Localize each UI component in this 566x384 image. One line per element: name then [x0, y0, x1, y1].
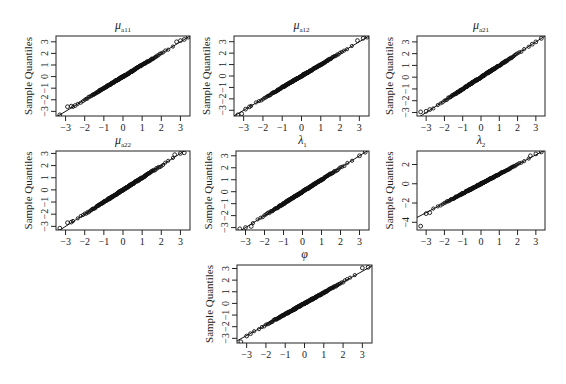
- y-tick-label: −3: [217, 105, 228, 116]
- y-tick-label: −2: [400, 95, 411, 106]
- y-axis-label: Sample Quantiles: [22, 37, 34, 115]
- y-tick-label: 2: [39, 163, 50, 168]
- qq-plot-grid: μa11−3−2−10123−3−2−10123Sample Quantiles…: [0, 0, 566, 384]
- y-tick-label: 3: [217, 39, 228, 44]
- y-tick-label: −2: [39, 94, 50, 105]
- x-tick-label: −3: [421, 122, 432, 133]
- panel-title: μa12: [292, 18, 310, 34]
- x-tick-label: 1: [497, 236, 502, 247]
- panel-title: λ2: [476, 133, 486, 149]
- x-tick-label: 0: [299, 122, 304, 133]
- x-tick-label: −1: [457, 236, 468, 247]
- y-tick-label: −1: [220, 310, 231, 321]
- y-tick-label: 2: [220, 278, 231, 283]
- y-axis-label: Sample Quantiles: [202, 152, 214, 230]
- qq-panel-1: μa12−3−2−10123−3−2−10123Sample Quantiles: [200, 18, 369, 133]
- x-tick-label: −1: [99, 122, 110, 133]
- y-tick-label: 1: [217, 62, 228, 67]
- x-tick-label: 0: [479, 122, 484, 133]
- x-tick-label: −1: [277, 122, 288, 133]
- x-tick-label: −3: [238, 122, 249, 133]
- x-tick-label: −2: [261, 349, 272, 360]
- x-tick-label: −3: [240, 236, 251, 247]
- x-tick-label: −1: [457, 122, 468, 133]
- x-tick-label: 1: [497, 122, 502, 133]
- y-tick-label: −3: [39, 106, 50, 117]
- x-tick-label: 1: [321, 349, 326, 360]
- x-tick-label: 3: [533, 122, 538, 133]
- qq-panel-2: μa21−3−2−10123−3−2−10123Sample Quantiles: [383, 18, 545, 133]
- y-tick-label: 3: [39, 151, 50, 156]
- y-tick-label: 0: [220, 301, 231, 306]
- x-tick-label: −2: [439, 122, 450, 133]
- panel-title: λ1: [297, 133, 307, 149]
- y-axis-label: Sample Quantiles: [200, 37, 212, 115]
- y-axis-label: Sample Quantiles: [383, 37, 395, 115]
- y-tick-label: −2: [39, 209, 50, 220]
- x-tick-label: −2: [79, 236, 90, 247]
- x-tick-label: 2: [515, 122, 520, 133]
- y-tick-label: −2: [217, 94, 228, 105]
- x-tick-label: 3: [357, 236, 362, 247]
- x-tick-label: 3: [533, 236, 538, 247]
- y-tick-label: 2: [219, 165, 230, 170]
- y-tick-label: 0: [219, 189, 230, 194]
- y-tick-label: 1: [400, 63, 411, 68]
- y-tick-label: 2: [217, 51, 228, 56]
- qq-panel-6: φ−3−2−10123−3−2−10123Sample Quantiles: [203, 247, 372, 360]
- y-tick-label: −2: [219, 210, 230, 221]
- y-tick-label: 3: [400, 39, 411, 44]
- panel-title: μa11: [114, 18, 131, 34]
- qq-panel-0: μa11−3−2−10123−3−2−10123Sample Quantiles: [22, 18, 190, 133]
- panel-title: φ: [301, 247, 308, 261]
- x-tick-label: −1: [280, 349, 291, 360]
- panel-title: μa21: [472, 18, 490, 34]
- x-tick-label: 1: [318, 122, 323, 133]
- x-tick-label: −3: [421, 236, 432, 247]
- x-tick-label: 3: [178, 122, 183, 133]
- y-tick-label: −3: [400, 107, 411, 118]
- x-tick-label: 0: [121, 236, 126, 247]
- y-tick-label: 1: [39, 175, 50, 180]
- x-tick-label: 1: [140, 122, 145, 133]
- y-tick-label: −3: [220, 333, 231, 344]
- y-tick-label: 1: [39, 62, 50, 67]
- y-tick-label: −2: [220, 321, 231, 332]
- x-tick-label: 2: [159, 122, 164, 133]
- x-tick-label: 0: [121, 122, 126, 133]
- x-tick-label: 3: [360, 349, 365, 360]
- y-tick-label: −1: [400, 84, 411, 95]
- x-tick-label: 2: [515, 236, 520, 247]
- y-tick-label: 1: [220, 289, 231, 294]
- figure-canvas: μa11−3−2−10123−3−2−10123Sample Quantiles…: [0, 0, 566, 384]
- x-tick-label: 2: [159, 236, 164, 247]
- y-tick-label: 0: [39, 74, 50, 79]
- x-tick-label: 2: [338, 122, 343, 133]
- y-tick-label: 0: [217, 74, 228, 79]
- x-tick-label: −1: [278, 236, 289, 247]
- y-tick-label: 0: [400, 75, 411, 80]
- x-tick-label: 2: [338, 236, 343, 247]
- y-axis-label: Sample Quantiles: [22, 152, 34, 230]
- y-tick-label: −2: [400, 198, 411, 209]
- x-tick-label: 0: [300, 236, 305, 247]
- y-tick-label: −1: [39, 83, 50, 94]
- qq-panel-5: λ2−3−2−10123−4−202Sample Quantiles: [383, 133, 545, 247]
- x-tick-label: −3: [60, 122, 71, 133]
- y-tick-label: 0: [39, 187, 50, 192]
- x-tick-label: 0: [479, 236, 484, 247]
- qq-panel-4: λ1−3−2−10123−3−2−10123Sample Quantiles: [202, 133, 369, 247]
- x-tick-label: −2: [439, 236, 450, 247]
- y-axis-label: Sample Quantiles: [203, 265, 215, 343]
- x-tick-label: 1: [319, 236, 324, 247]
- x-tick-label: 3: [178, 236, 183, 247]
- y-tick-label: 2: [400, 51, 411, 56]
- x-tick-label: −1: [99, 236, 110, 247]
- y-tick-label: −1: [39, 197, 50, 208]
- y-tick-label: 3: [219, 153, 230, 158]
- x-tick-label: −3: [241, 349, 252, 360]
- x-tick-label: 1: [140, 236, 145, 247]
- x-tick-label: 0: [302, 349, 307, 360]
- qq-panel-3: μa22−3−2−10123−3−2−10123Sample Quantiles: [22, 133, 190, 247]
- x-tick-label: −3: [60, 236, 71, 247]
